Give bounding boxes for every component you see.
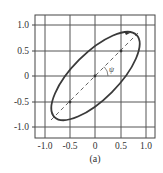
x-tick-label: 0.5 [115, 141, 127, 151]
point-origin [94, 75, 97, 78]
y-tick-label: 1.0 [17, 20, 29, 30]
x-tick-label: -1.0 [37, 141, 52, 151]
polarization-ellipse-chart: ψ 1.0 0.5 0 -0.5 -1.0 -1.0 -0.5 0 0.5 1.… [0, 0, 163, 173]
x-tick-label: 0 [93, 141, 98, 151]
y-tick-label: 0 [24, 71, 29, 81]
figure-caption: (a) [89, 153, 100, 165]
x-tick-label: 1.0 [140, 141, 152, 151]
x-tick-label: -0.5 [62, 141, 77, 151]
y-tick-label: -1.0 [14, 122, 29, 132]
y-tick-label: -0.5 [14, 97, 29, 107]
point-neg05 [69, 101, 72, 104]
point-05 [120, 50, 123, 53]
y-tick-label: 0.5 [17, 46, 29, 56]
